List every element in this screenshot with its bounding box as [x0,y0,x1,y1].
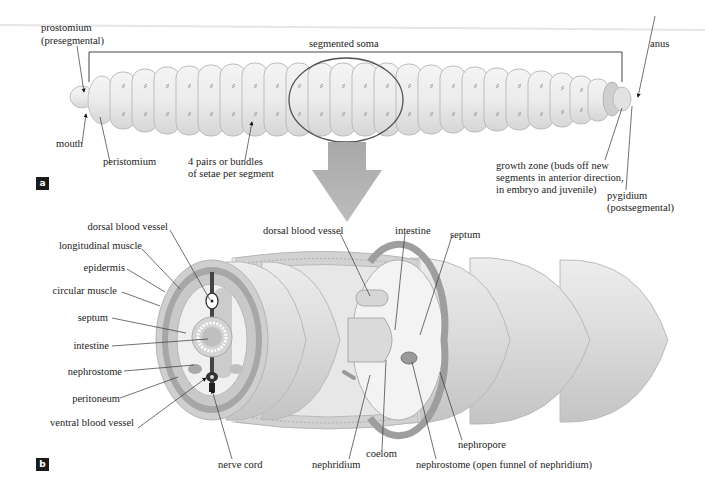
label-prostomium: prostomium [41,22,92,34]
label-intestine-left: intestine [73,340,109,352]
label-coelom: coelom [366,448,397,460]
label-growth-line3: in embryo and juvenile) [496,184,597,196]
label-pygidium-note: (postsegmental) [607,202,674,214]
label-peritoneum: peritoneum [72,393,120,405]
label-longitudinal-muscle: longitudinal muscle [59,240,142,252]
label-septum-inner: septum [450,229,480,241]
label-epidermis: epidermis [84,262,125,274]
label-growth-line1: growth zone (buds off new [496,160,609,172]
label-nephropore: nephropore [458,439,506,451]
label-peristomium: peristomium [103,156,156,168]
label-growth-line2: segments in anterior direction, [496,172,624,184]
label-segmented-soma: segmented soma [309,38,379,50]
label-pygidium: pygidium [607,190,647,202]
label-mouth: mouth [56,138,83,150]
panel-badge-a: a [36,177,49,190]
label-anus: anus [650,38,669,50]
label-ventral-blood-vessel: ventral blood vessel [50,417,134,429]
label-nephridium: nephridium [312,459,360,471]
label-nephrostome-left: nephrostome [68,366,122,378]
worm-exterior [0,25,705,222]
label-setae-line1: 4 pairs or bundles [188,156,263,168]
label-dorsal-blood-vessel-inner: dorsal blood vessel [263,225,344,237]
label-setae-line2: of setae per segment [188,168,274,180]
label-nerve-cord: nerve cord [218,459,263,471]
segment-cutaway [156,244,668,436]
panel-badge-b: b [36,458,49,471]
label-septum-left: septum [78,312,108,324]
label-dorsal-blood-vessel-left: dorsal blood vessel [88,221,169,233]
label-intestine-inner: intestine [395,225,431,237]
label-nephrostome-open-funnel: nephrostome (open funnel of nephridium) [416,459,592,471]
label-prostomium-note: (presegmental) [41,35,104,47]
label-circular-muscle: circular muscle [53,285,117,297]
worm-anatomy-figure: prostomium (presegmental) segmented soma… [0,0,705,493]
